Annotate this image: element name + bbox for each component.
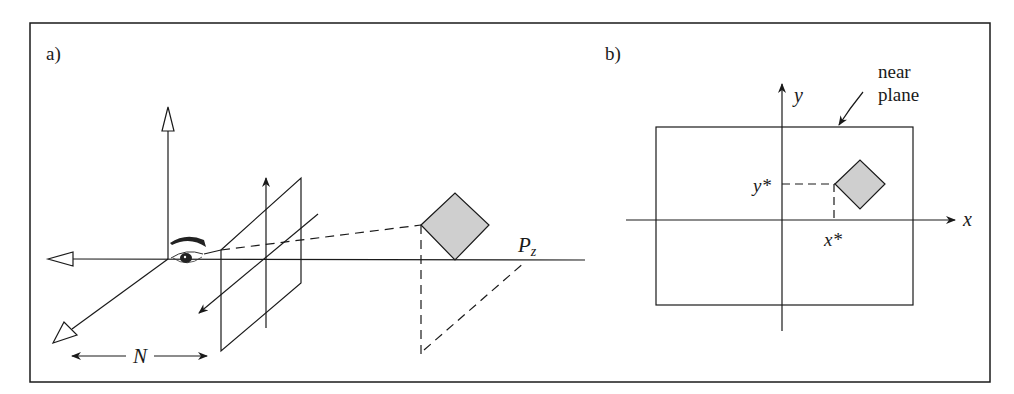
panel-a: a) P <box>46 43 585 368</box>
figure-frame <box>30 23 990 382</box>
y-axis-label: y <box>792 84 803 107</box>
y-star-label: y* <box>751 175 771 196</box>
near-plane-parallelogram <box>221 178 301 351</box>
hollow-arrowhead-left-icon <box>48 252 73 266</box>
world-horizontal-axis <box>73 259 585 260</box>
eye-ray <box>204 250 221 254</box>
panel-b-label: b) <box>605 43 621 65</box>
panel-a-label: a) <box>46 43 61 65</box>
near-plane-label-line1: near <box>878 61 911 82</box>
near-plane-rectangle <box>656 127 913 305</box>
x-axis-label: x <box>962 208 972 230</box>
perspective-projection-figure: a) P <box>0 0 1014 394</box>
n-label: N <box>132 344 148 368</box>
world-z-axis <box>72 259 168 329</box>
near-plane-pointer-arrow <box>839 92 863 125</box>
projection-ray-dashed <box>221 225 421 250</box>
object-diamond <box>421 193 489 260</box>
x-star-label: x* <box>823 229 842 250</box>
dashed-drop-diagonal <box>424 262 525 350</box>
hollow-arrowhead-up-icon <box>162 107 174 131</box>
near-plane-label-line2: plane <box>878 84 919 105</box>
plane-x-axis <box>199 214 318 313</box>
panel-b: b) y x y* x* near plane <box>605 43 972 331</box>
projected-diamond <box>835 160 885 209</box>
hollow-arrowhead-diagonal-icon <box>53 322 77 343</box>
pz-label: Pz <box>517 233 537 259</box>
